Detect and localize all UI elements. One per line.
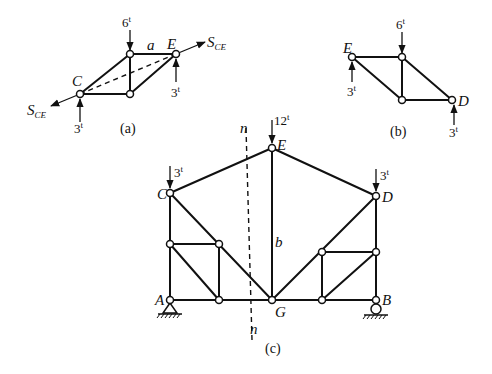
node-c-b bbox=[373, 297, 380, 304]
label-c-e: E bbox=[276, 137, 286, 153]
node-c-left-inner bbox=[216, 241, 223, 248]
load-c-e: 12t bbox=[274, 112, 290, 128]
label-a-e: E bbox=[166, 36, 176, 52]
member-b-diag-left bbox=[352, 57, 402, 100]
section-line-n bbox=[246, 128, 252, 340]
caption-a: (a) bbox=[120, 121, 136, 137]
node-c-left-mid bbox=[167, 241, 174, 248]
figure-a: C E a 6t 3t 3t SCE SCE (a) bbox=[27, 14, 227, 137]
label-c-a: A bbox=[154, 292, 165, 308]
load-b-top: 6t bbox=[396, 16, 406, 32]
node-c-c bbox=[167, 190, 174, 197]
node-b-bottom bbox=[399, 97, 406, 104]
node-c-e bbox=[269, 145, 276, 152]
node-c-right-bottom bbox=[319, 297, 326, 304]
member-a-diag-left bbox=[80, 54, 130, 94]
caption-c: (c) bbox=[265, 341, 281, 357]
force-arrow-sce-right bbox=[176, 42, 205, 54]
force-arrow-sce-left bbox=[51, 94, 80, 106]
node-c-left-bottom bbox=[216, 297, 223, 304]
figure-c: E C D A B G b n n 12t 3t 3t (c) bbox=[154, 112, 393, 357]
force-label-sce-right: SCE bbox=[207, 34, 227, 52]
label-member-b: b bbox=[275, 234, 283, 250]
label-c-g: G bbox=[275, 304, 286, 320]
load-a-c: 3t bbox=[74, 120, 84, 136]
member-a-ce-dashed bbox=[80, 54, 176, 94]
label-a-c: C bbox=[72, 73, 83, 89]
member-c-left-diag bbox=[170, 244, 219, 300]
node-c-g bbox=[269, 297, 276, 304]
force-label-sce-left: SCE bbox=[27, 102, 47, 120]
member-c-ed bbox=[272, 148, 376, 196]
node-a-bottom bbox=[127, 91, 134, 98]
label-section-n-top: n bbox=[240, 120, 248, 136]
label-section-n-bottom: n bbox=[250, 321, 258, 337]
node-b-d bbox=[449, 97, 456, 104]
label-c-c: C bbox=[157, 186, 168, 202]
label-c-d: D bbox=[381, 189, 393, 205]
member-c-dg bbox=[272, 196, 376, 300]
member-c-right-diag bbox=[322, 252, 376, 300]
caption-b: (b) bbox=[390, 124, 407, 140]
load-c-d: 3t bbox=[380, 167, 390, 183]
truss-diagram: C E a 6t 3t 3t SCE SCE (a) E D 6t 3t 3t … bbox=[0, 0, 492, 374]
load-a-e: 3t bbox=[171, 84, 181, 100]
member-b-diag-right bbox=[402, 57, 452, 100]
load-b-d: 3t bbox=[449, 124, 459, 140]
node-c-a bbox=[167, 297, 174, 304]
member-c-ce bbox=[170, 148, 272, 193]
node-c-d bbox=[373, 193, 380, 200]
label-b-d: D bbox=[457, 93, 469, 109]
node-c-right-mid bbox=[373, 249, 380, 256]
load-a-top: 6t bbox=[122, 14, 132, 30]
member-a-diag-right bbox=[130, 54, 176, 94]
load-c-c: 3t bbox=[174, 164, 184, 180]
node-a-c bbox=[77, 91, 84, 98]
node-b-top bbox=[399, 54, 406, 61]
label-c-b: B bbox=[382, 292, 391, 308]
node-c-right-inner bbox=[319, 249, 326, 256]
node-a-top bbox=[127, 51, 134, 58]
label-member-a: a bbox=[147, 37, 155, 53]
label-b-e: E bbox=[342, 40, 352, 56]
load-b-e: 3t bbox=[347, 83, 357, 99]
figure-b: E D 6t 3t 3t (b) bbox=[342, 16, 469, 140]
